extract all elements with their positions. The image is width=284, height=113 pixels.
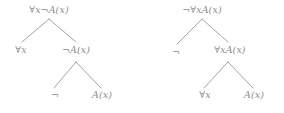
edge-quantified-subformula-to-atom xyxy=(228,62,253,88)
tree-node-negation-symbol: ¬ xyxy=(172,47,180,57)
tree-node-quantifier: ∀x xyxy=(15,45,26,55)
tree-node-negation-symbol: ¬ xyxy=(51,90,59,100)
tree-node-root: ¬∀xA(x) xyxy=(182,5,221,15)
edge-root-to-negation-symbol xyxy=(177,19,202,44)
tree-node-atom: A(x) xyxy=(92,90,112,100)
edge-quantified-subformula-to-quantifier xyxy=(204,62,228,88)
tree-node-negation-subformula: ¬A(x) xyxy=(62,45,90,55)
edge-root-to-quantifier xyxy=(22,19,49,42)
tree-left-edges xyxy=(0,0,142,113)
tree-node-quantifier: ∀x xyxy=(199,90,210,100)
edge-negation-subformula-to-negation-symbol xyxy=(54,62,76,88)
edge-root-to-quantified-subformula xyxy=(202,19,228,42)
formation-trees-figure: ∀x¬A(x) ∀x ¬A(x) ¬ A(x) ¬∀xA(x) ¬ ∀xA(x)… xyxy=(0,0,284,113)
tree-node-root: ∀x¬A(x) xyxy=(29,5,68,15)
tree-forall-x-not-A-x: ∀x¬A(x) ∀x ¬A(x) ¬ A(x) xyxy=(0,0,142,113)
tree-node-atom: A(x) xyxy=(244,90,264,100)
edge-negation-subformula-to-atom xyxy=(76,62,101,88)
tree-node-quantified-subformula: ∀xA(x) xyxy=(214,45,245,55)
edge-root-to-negation-subformula xyxy=(49,19,76,42)
tree-not-forall-x-A-x: ¬∀xA(x) ¬ ∀xA(x) ∀x A(x) xyxy=(142,0,284,113)
